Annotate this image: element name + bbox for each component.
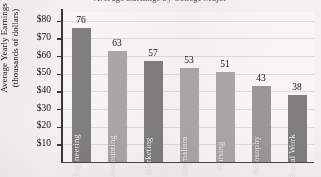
bar-journalism: Journalism — [180, 68, 199, 162]
bar-engineering: Engineering — [72, 28, 91, 162]
bar-category-label: Nursing — [215, 142, 225, 171]
bar-social-work: Social Work — [288, 95, 307, 162]
y-axis-tick-label: $40 — [15, 85, 51, 95]
gridline — [62, 38, 314, 39]
x-axis-line — [61, 162, 314, 163]
y-axis-tick-label: $50 — [15, 67, 51, 77]
y-axis-title-line-1: Average Yearly Earnings — [0, 0, 10, 112]
bar-nursing: Nursing — [216, 72, 235, 162]
bar-value-label: 63 — [108, 38, 127, 48]
bar-category-label: Philosophy — [251, 136, 261, 176]
y-axis-tick-label: $30 — [15, 103, 51, 113]
gridline — [62, 21, 314, 22]
bar-category-label: Accounting — [107, 135, 117, 177]
bar-category-label: Engineering — [71, 134, 81, 177]
bar-category-label: Journalism — [179, 136, 189, 175]
bar-value-label: 43 — [252, 73, 271, 83]
bar-value-label: 53 — [180, 55, 199, 65]
bar-category-label: Social Work — [287, 134, 297, 177]
y-axis-tick-label: $60 — [15, 50, 51, 60]
bar-value-label: 57 — [144, 48, 163, 58]
plot-area: $10$20$30$40$50$60$70$80 Engineering76Ac… — [62, 12, 314, 162]
chart-figure: Average Earnings by College Major Averag… — [0, 0, 321, 177]
y-axis-tick-label: $70 — [15, 32, 51, 42]
y-axis-tick-label: $10 — [15, 138, 51, 148]
bar-marketing: Marketing — [144, 61, 163, 162]
y-axis-tick-label: $80 — [15, 14, 51, 24]
chart-title: Average Earnings by College Major — [0, 0, 321, 3]
bar-value-label: 51 — [216, 59, 235, 69]
bar-philosophy: Philosophy — [252, 86, 271, 162]
y-axis-line — [61, 9, 63, 162]
bar-category-label: Marketing — [143, 137, 153, 174]
bar-accounting: Accounting — [108, 51, 127, 162]
bar-value-label: 76 — [72, 15, 91, 25]
bar-value-label: 38 — [288, 82, 307, 92]
y-axis-tick-label: $20 — [15, 120, 51, 130]
